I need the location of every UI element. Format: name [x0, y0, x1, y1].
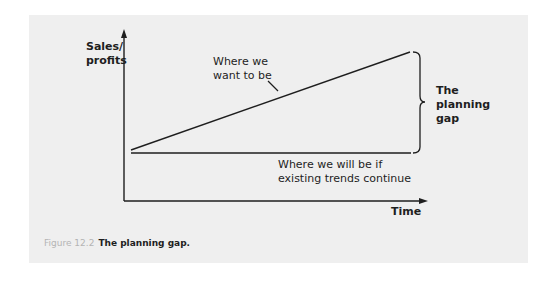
x-axis-label: Time — [391, 205, 421, 219]
current-trend-label: Where we will be if existing trends cont… — [278, 158, 411, 186]
x-axis — [124, 198, 428, 204]
x-axis-arrow-icon — [419, 198, 428, 204]
caption-title: The planning gap. — [98, 238, 190, 248]
gap-brace-icon — [413, 52, 425, 153]
caption-number: Figure 12.2 — [44, 238, 94, 248]
figure-caption: Figure 12.2The planning gap. — [44, 237, 190, 249]
planning-gap-label: The planning gap — [436, 84, 490, 126]
y-axis-label: Sales/ profits — [86, 40, 127, 68]
y-axis-arrow-icon — [121, 29, 127, 38]
target-line-label: Where we want to be — [213, 55, 272, 83]
